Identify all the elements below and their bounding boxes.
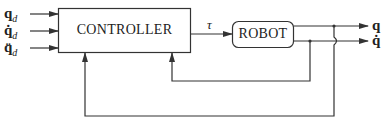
- output-label-qdot: q̇: [372, 33, 380, 48]
- junction-dot-qdot: [308, 39, 311, 42]
- output-label-q: q: [372, 18, 380, 33]
- feedback-q: [85, 26, 337, 116]
- junction-dot-q: [332, 24, 335, 27]
- input-subscript: d: [12, 47, 17, 58]
- input-label-qd-ddot: q̈d: [4, 40, 17, 60]
- block-diagram-canvas: [0, 0, 392, 125]
- tau-label: τ: [207, 17, 212, 33]
- robot-label: ROBOT: [232, 26, 294, 42]
- controller-label: CONTROLLER: [58, 22, 191, 38]
